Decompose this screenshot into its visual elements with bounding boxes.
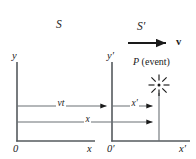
event-label: P (event)	[133, 57, 170, 67]
velocity-label: v	[176, 37, 181, 48]
origin-label-zero: 0	[13, 144, 18, 155]
frame-sprime-axes	[111, 62, 190, 142]
starburst-icon	[149, 75, 170, 97]
axis-label-x: x	[87, 144, 92, 155]
frame-label-s: S	[56, 19, 62, 31]
segment-label-x: x	[84, 115, 91, 125]
event-label-paren: (event)	[142, 56, 170, 67]
axis-label-x-prime: x′	[179, 144, 186, 155]
frame-label-s-prime: S′	[137, 21, 145, 33]
segment-label-x-prime: x′	[130, 99, 139, 109]
diagram-canvas	[0, 0, 196, 159]
physics-diagram-galilean-frames: S S′ v P (event) y y′ 0 x 0′ x′ vt x′ x	[0, 0, 196, 159]
origin-label-zero-prime: 0′	[107, 144, 115, 155]
axis-label-y-prime: y′	[107, 51, 114, 62]
segment-label-vt: vt	[56, 99, 66, 109]
axis-label-y: y	[12, 51, 17, 62]
